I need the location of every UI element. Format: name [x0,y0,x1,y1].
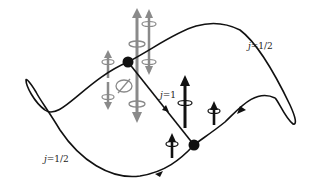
label-j-half-top-right: j=1/2 [246,41,273,51]
black-up-arrow-left-icon [166,133,178,158]
label-j-half-bottom-left: j=1/2 [42,154,69,164]
lower-node [189,140,200,151]
edge-j-half-upper [45,23,295,124]
label-j-one: j=1 [158,90,176,100]
black-up-arrow-tall-icon [178,75,192,128]
gray-rotation-icon [116,79,132,93]
upper-node [123,57,134,68]
black-up-arrow-right-icon [208,101,220,125]
spin-network-diagram: j=1/2 j=1/2 j=1 [0,0,319,192]
gray-down-arrow-left-icon [102,82,114,110]
gray-up-arrow-left-icon [102,50,114,78]
